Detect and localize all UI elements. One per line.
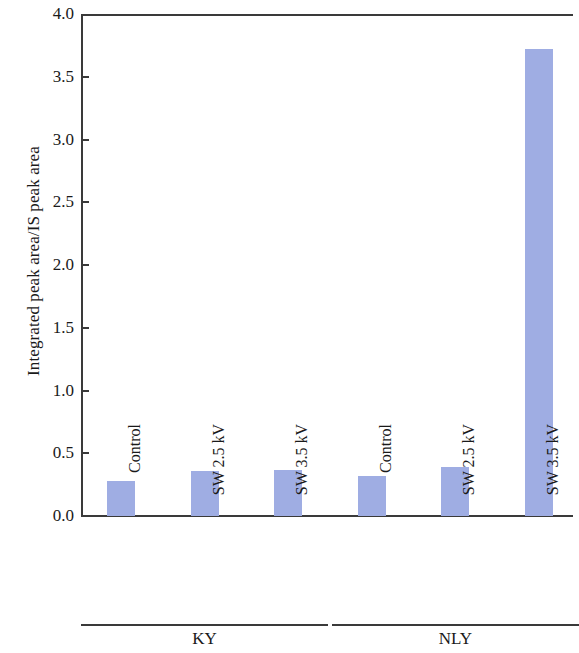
x-axis-tick-label: Control <box>127 424 143 524</box>
group-rule <box>81 624 328 626</box>
x-axis-tick-label: SW 2.5 kV <box>211 424 227 524</box>
group-rule <box>332 624 579 626</box>
x-axis-tick-label: SW 3.5 kV <box>545 424 561 524</box>
x-axis-tick-label: Control <box>378 424 394 524</box>
group-label: NLY <box>332 629 579 649</box>
x-axis-tick-label: SW 2.5 kV <box>461 424 477 524</box>
group-label: KY <box>81 629 328 649</box>
x-axis-tick-label: SW 3.5 kV <box>294 424 310 524</box>
